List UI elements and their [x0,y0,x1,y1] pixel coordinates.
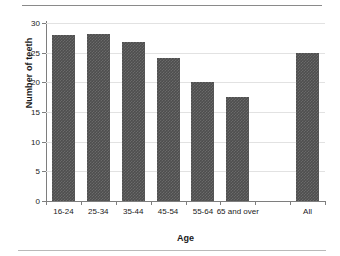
x-tick-mark [151,201,152,205]
x-tick-label: All [281,207,335,217]
bar [157,58,180,201]
x-tick-mark [220,201,221,205]
x-tick-mark [325,201,326,205]
bar [191,82,214,201]
x-tick-mark [186,201,187,205]
bar [87,34,110,201]
y-tick-label: 30 [31,19,40,28]
y-tick-mark [42,82,46,83]
y-tick-mark [42,171,46,172]
x-tick-mark [81,201,82,205]
y-tick-label: 10 [31,137,40,146]
bar [226,97,249,201]
y-tick-label: 5 [36,167,40,176]
y-tick-mark [42,142,46,143]
bar [296,53,319,201]
page-rule-top [22,5,322,6]
gridline [46,23,325,24]
page-rule-bottom [18,250,326,251]
y-tick-label: 15 [31,108,40,117]
x-tick-mark [255,201,256,205]
x-tick-mark [46,201,47,205]
plot-area: 051015202530 [46,23,325,201]
bar [122,42,145,201]
y-tick-mark [42,23,46,24]
y-axis-title: Number of teeth [24,8,34,138]
x-tick-mark [290,201,291,205]
y-tick-mark [42,112,46,113]
y-tick-mark [42,53,46,54]
y-tick-label: 20 [31,78,40,87]
x-tick-mark [116,201,117,205]
bar [52,35,75,201]
y-tick-label: 0 [36,197,40,206]
y-tick-label: 25 [31,48,40,57]
x-axis-title: Age [46,233,325,243]
bar-chart-figure: Number of teeth 051015202530 16-2425-343… [0,0,340,256]
x-tick-label: 65 and over [211,207,265,217]
